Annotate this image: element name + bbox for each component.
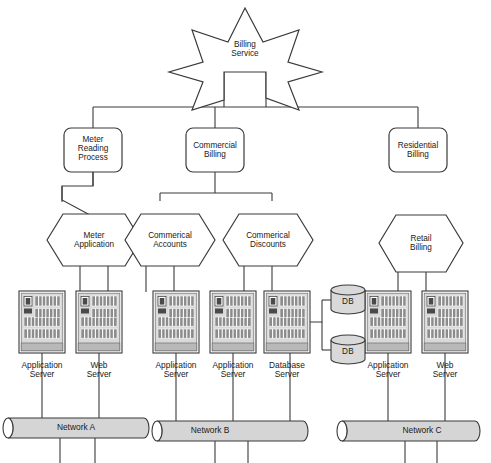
server-rack-3[interactable] bbox=[153, 291, 199, 353]
server-rack-5[interactable] bbox=[264, 291, 310, 353]
process-box-meter-reading[interactable] bbox=[64, 128, 122, 172]
process-box-commercial-billing[interactable] bbox=[186, 128, 244, 172]
network-pipe-b[interactable] bbox=[152, 421, 308, 441]
network-pipe-a[interactable] bbox=[3, 418, 149, 438]
server-rack-4[interactable] bbox=[210, 291, 256, 353]
process-box-residential-billing[interactable] bbox=[389, 128, 447, 172]
billing-service-star[interactable] bbox=[169, 8, 322, 110]
server-rack-6[interactable] bbox=[365, 291, 411, 353]
database-cylinder-top[interactable] bbox=[331, 285, 365, 314]
diagram-graphics bbox=[0, 0, 491, 463]
application-hexagons bbox=[47, 214, 463, 272]
diagram-canvas: Billing Service Meter Reading Process Co… bbox=[0, 0, 491, 463]
hexagon-commerical-discounts[interactable] bbox=[223, 214, 313, 266]
database-cylinders bbox=[331, 285, 365, 364]
network-pipe-c[interactable] bbox=[337, 421, 480, 441]
hexagon-retail-billing[interactable] bbox=[379, 215, 463, 272]
server-rack-7[interactable] bbox=[422, 291, 468, 353]
server-rack-1[interactable] bbox=[19, 291, 65, 353]
network-pipes bbox=[3, 418, 480, 441]
server-racks bbox=[19, 291, 468, 353]
hexagon-commerical-accounts[interactable] bbox=[125, 214, 215, 266]
database-cylinder-bottom[interactable] bbox=[331, 335, 365, 364]
process-boxes bbox=[64, 128, 447, 172]
server-rack-2[interactable] bbox=[76, 291, 122, 353]
